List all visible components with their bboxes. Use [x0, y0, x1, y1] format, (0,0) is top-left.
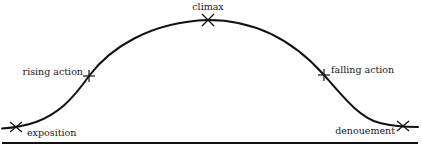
falling-action-label: falling action: [331, 64, 394, 75]
climax-label: climax: [192, 1, 224, 12]
rising-action-label: rising action: [23, 66, 83, 77]
plot-arc-diagram: exposition rising action climax falling …: [0, 0, 422, 151]
exposition-label: exposition: [27, 127, 76, 138]
denouement-label: denouement: [335, 125, 395, 136]
